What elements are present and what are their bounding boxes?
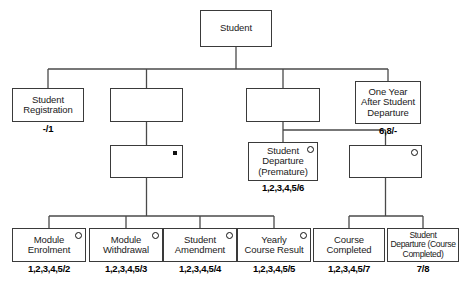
box-course-complete[interactable]: Course Completed xyxy=(313,228,385,262)
entity-life-history-diagram: StudentStudent Registration-/1One Year A… xyxy=(0,0,465,288)
selection-circle-icon xyxy=(411,149,418,156)
box-label-yearly-result: Yearly Course Result xyxy=(242,235,307,256)
box-selection-box[interactable] xyxy=(349,145,422,178)
caption-registration: -/1 xyxy=(0,123,96,134)
box-iteration-box[interactable] xyxy=(110,145,183,178)
box-dep-premature[interactable]: Student Departure (Premature) xyxy=(248,142,318,181)
node-module-withdraw[interactable]: Module Withdrawal1,2,3,4,5/3 xyxy=(89,228,163,262)
box-yearly-result[interactable]: Yearly Course Result xyxy=(237,228,311,262)
box-label-stu-amend: Student Amendment xyxy=(172,235,228,256)
box-label-one-year: One Year After Student Departure xyxy=(358,87,418,119)
node-yearly-result[interactable]: Yearly Course Result1,2,3,4,5/5 xyxy=(237,228,311,262)
box-label-module-withdraw: Module Withdrawal xyxy=(100,235,152,256)
box-mid-right[interactable] xyxy=(246,88,320,122)
node-one-year[interactable]: One Year After Student Departure6,8/- xyxy=(355,81,421,124)
node-selection-box[interactable] xyxy=(349,145,422,178)
box-label-dep-premature: Student Departure (Premature) xyxy=(255,146,311,178)
selection-circle-icon xyxy=(226,232,233,239)
box-stu-amend[interactable]: Student Amendment xyxy=(163,228,237,262)
node-registration[interactable]: Student Registration-/1 xyxy=(12,88,84,122)
node-dep-completed[interactable]: Student Departure (Course Completed)7/8 xyxy=(387,228,459,262)
box-dep-completed[interactable]: Student Departure (Course Completed) xyxy=(387,228,459,262)
box-module-enrol[interactable]: Module Enrolment xyxy=(12,228,86,262)
node-mid-right[interactable] xyxy=(246,88,320,122)
node-stu-amend[interactable]: Student Amendment1,2,3,4,5/4 xyxy=(163,228,237,262)
selection-circle-icon xyxy=(307,146,314,153)
node-course-complete[interactable]: Course Completed1,2,3,4,5/7 xyxy=(313,228,385,262)
box-mid-left[interactable] xyxy=(110,88,183,122)
box-root[interactable]: Student xyxy=(200,10,272,47)
box-label-course-complete: Course Completed xyxy=(323,235,374,256)
node-dep-premature[interactable]: Student Departure (Premature)1,2,3,4,5/6 xyxy=(248,142,318,181)
box-one-year[interactable]: One Year After Student Departure xyxy=(355,81,421,124)
node-iteration-box[interactable] xyxy=(110,145,183,178)
box-label-root: Student xyxy=(217,23,255,34)
caption-dep-completed: 7/8 xyxy=(375,263,465,274)
caption-dep-premature: 1,2,3,4,5/6 xyxy=(236,182,330,193)
box-registration[interactable]: Student Registration xyxy=(12,88,84,122)
node-root[interactable]: Student xyxy=(200,10,272,47)
selection-circle-icon xyxy=(75,232,82,239)
box-module-withdraw[interactable]: Module Withdrawal xyxy=(89,228,163,262)
box-label-module-enrol: Module Enrolment xyxy=(25,235,73,256)
selection-circle-icon xyxy=(152,232,159,239)
node-mid-left[interactable] xyxy=(110,88,183,122)
box-label-registration: Student Registration xyxy=(20,95,76,116)
selection-circle-icon xyxy=(300,232,307,239)
iteration-asterisk-icon xyxy=(173,151,177,155)
box-label-dep-completed: Student Departure (Course Completed) xyxy=(389,231,456,260)
caption-one-year: 6,8/- xyxy=(343,125,433,136)
node-module-enrol[interactable]: Module Enrolment1,2,3,4,5/2 xyxy=(12,228,86,262)
